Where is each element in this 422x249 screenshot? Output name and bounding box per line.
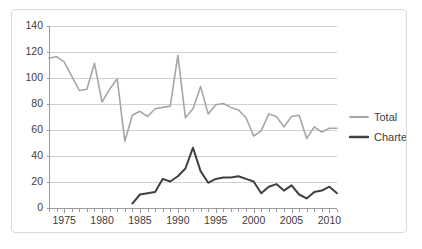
x-tick-label: 1975 bbox=[52, 214, 76, 226]
legend-item[interactable]: Charter bbox=[350, 131, 406, 143]
x-axis bbox=[49, 209, 338, 213]
x-tick-label: 1995 bbox=[204, 214, 228, 226]
series-lines bbox=[49, 55, 337, 203]
y-tick-labels: 020406080100120140 bbox=[25, 19, 43, 213]
series-line-total bbox=[49, 55, 337, 141]
x-tick-labels: 19751980198519901995200020052010 bbox=[52, 214, 341, 226]
legend-label: Charter bbox=[374, 131, 406, 143]
x-tick-label: 2005 bbox=[280, 214, 304, 226]
gridlines bbox=[49, 27, 337, 183]
y-tick-label: 100 bbox=[25, 71, 43, 83]
legend-label: Total bbox=[374, 111, 397, 123]
line-chart: 020406080100120140 197519801985199019952… bbox=[12, 10, 406, 232]
chart-card: 020406080100120140 197519801985199019952… bbox=[11, 9, 407, 233]
y-tick-label: 120 bbox=[25, 45, 43, 57]
chart-legend: TotalCharter bbox=[350, 111, 406, 143]
y-axis bbox=[47, 26, 50, 209]
y-tick-label: 40 bbox=[31, 149, 43, 161]
x-tick-label: 2000 bbox=[242, 214, 266, 226]
x-tick-label: 1990 bbox=[166, 214, 190, 226]
x-tick-label: 1980 bbox=[90, 214, 114, 226]
x-tick-label: 1985 bbox=[128, 214, 152, 226]
y-tick-label: 140 bbox=[25, 19, 43, 31]
y-tick-label: 0 bbox=[37, 201, 43, 213]
y-tick-label: 60 bbox=[31, 123, 43, 135]
y-tick-label: 80 bbox=[31, 97, 43, 109]
legend-item[interactable]: Total bbox=[350, 111, 397, 123]
x-tick-label: 2010 bbox=[318, 214, 342, 226]
y-tick-label: 20 bbox=[31, 175, 43, 187]
